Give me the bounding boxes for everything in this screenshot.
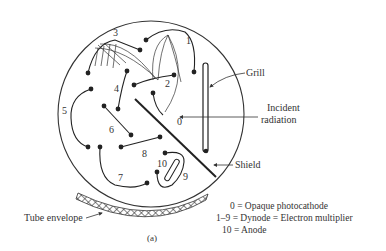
shield-label: Shield: [235, 159, 261, 170]
label-5: 5: [62, 105, 67, 116]
envelope-label: Tube envelope: [24, 212, 83, 223]
legend: 0 = Opaque photocathode 1–9 = Dynode = E…: [228, 200, 353, 236]
label-9: 9: [183, 171, 188, 182]
caption: (a): [147, 233, 157, 243]
label-4: 4: [114, 83, 119, 94]
label-7: 7: [118, 172, 123, 183]
incident-label: Incident: [267, 102, 300, 113]
label-8: 8: [142, 148, 147, 159]
tube-envelope: [76, 193, 208, 217]
label-2: 2: [165, 78, 170, 89]
label-3: 3: [113, 27, 118, 38]
legend-item: 1–9 = Dynode = Electron multiplier: [216, 212, 353, 224]
label-6: 6: [109, 124, 114, 135]
label-10: 10: [157, 158, 167, 169]
label-0: 0: [177, 116, 182, 127]
legend-item: 0 = Opaque photocathode: [228, 200, 353, 212]
label-1: 1: [186, 35, 191, 46]
radiation-label: radiation: [261, 114, 297, 125]
grill-label: Grill: [246, 67, 265, 78]
legend-item: 10 = Anode: [222, 224, 353, 236]
grill: [203, 63, 208, 152]
electron-paths: [95, 35, 181, 112]
